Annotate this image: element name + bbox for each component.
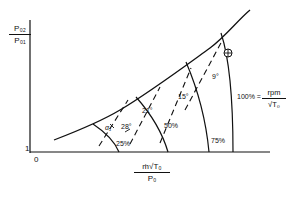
y-axis-numerator: P₀₂ — [9, 24, 31, 33]
incidence-label-21: 21° — [142, 107, 153, 114]
incidence-label-28: 28° — [121, 123, 132, 130]
speed-100-fraction: rpm √T₀ — [262, 88, 286, 109]
speed-line-75 — [186, 62, 209, 152]
speed-100-denominator: √T₀ — [262, 100, 286, 109]
speed-100-fraction-bar — [262, 98, 286, 99]
surge-line — [54, 10, 250, 140]
x-axis-denominator: P₀ — [134, 174, 170, 183]
speed-label-25: 25% — [116, 140, 130, 147]
speed-label-100: 100% = — [237, 93, 261, 100]
speed-100-prefix: 100% = — [237, 93, 261, 100]
y-origin-tick-label: 1 — [25, 145, 29, 153]
incidence-label-15: 15° — [178, 93, 189, 100]
speed-100-numerator: rpm — [262, 88, 286, 97]
x-axis-numerator: ṁ√T₀ — [134, 162, 170, 171]
x-origin-label: 0 — [34, 156, 38, 164]
y-axis-fraction-bar — [9, 34, 31, 35]
alpha-1-label: α₁ — [105, 124, 111, 131]
y-axis-denominator: P₀₁ — [9, 36, 31, 45]
speed-label-75: 75% — [211, 137, 225, 144]
x-axis-label: ṁ√T₀ P₀ — [134, 162, 170, 183]
design-point-marker-icon — [224, 49, 232, 57]
speed-label-50: 50% — [164, 122, 178, 129]
incidence-line-15 — [160, 68, 191, 143]
x-axis-fraction-bar — [134, 172, 170, 173]
incidence-label-9: 9° — [212, 73, 219, 80]
incidence-line-21 — [130, 87, 160, 144]
y-axis-label: P₀₂ P₀₁ — [9, 24, 31, 45]
